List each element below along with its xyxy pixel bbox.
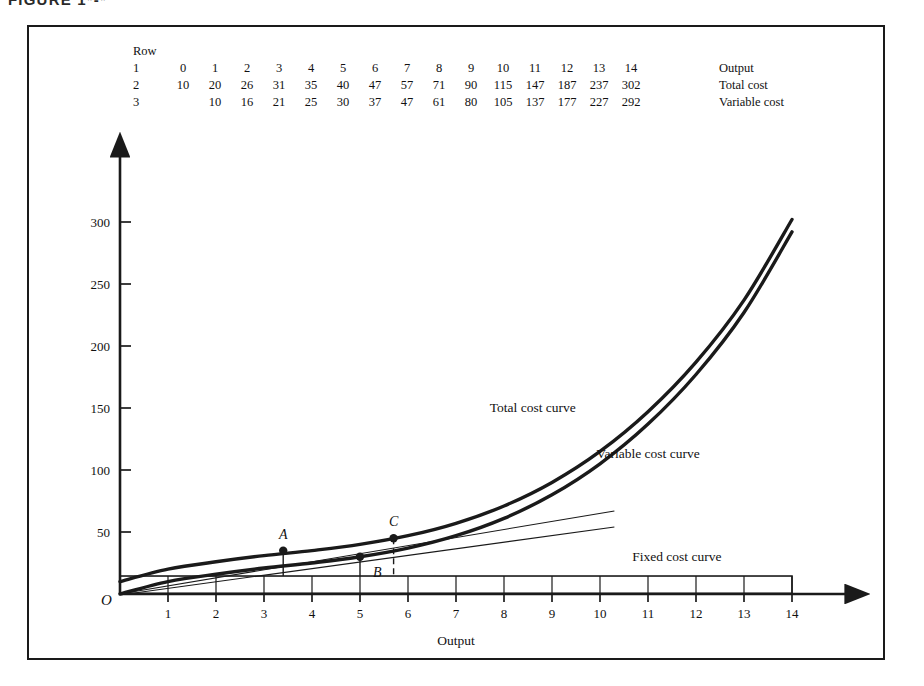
x-axis-tick-label: 12 <box>690 606 703 621</box>
x-axis-tick-label: 14 <box>786 606 800 621</box>
data-point-marker <box>279 546 287 554</box>
x-axis-tick-label: 9 <box>549 606 556 621</box>
y-axis-tick-label: 200 <box>91 339 111 354</box>
tangent-line-upper <box>127 511 614 593</box>
x-axis-tick-label: 13 <box>738 606 751 621</box>
data-point-label: C <box>389 514 399 529</box>
x-axis-tick-label: 3 <box>261 606 268 621</box>
y-axis-tick-label: 150 <box>91 401 111 416</box>
cost-curves-plot: 501001502002503001234567891011121314OOut… <box>29 27 887 662</box>
y-axis-tick-label: 300 <box>91 215 111 230</box>
data-point-label: A <box>278 527 288 542</box>
data-point-marker <box>356 553 364 561</box>
x-axis-tick-label: 1 <box>165 606 172 621</box>
tangent-line-lower <box>127 527 614 594</box>
fixed-cost-curve-label: Fixed cost curve <box>632 549 721 564</box>
y-axis-tick-label: 50 <box>97 525 110 540</box>
x-axis-title: Output <box>437 633 475 648</box>
variable-cost-curve-label: Variable cost curve <box>596 446 699 461</box>
x-axis-tick-label: 10 <box>594 606 607 621</box>
x-axis-tick-label: 8 <box>501 606 508 621</box>
x-axis-tick-label: 4 <box>309 606 316 621</box>
variable-cost-curve <box>120 232 792 594</box>
total-cost-curve <box>120 220 792 582</box>
x-axis-tick-label: 7 <box>453 606 460 621</box>
data-point-label: B <box>373 565 382 580</box>
origin-label: O <box>101 592 112 608</box>
x-axis-tick-label: 6 <box>405 606 412 621</box>
x-axis-tick-label: 2 <box>213 606 220 621</box>
total-cost-curve-label: Total cost curve <box>490 400 576 415</box>
y-axis-tick-label: 250 <box>91 277 111 292</box>
data-point-marker <box>389 534 397 542</box>
x-axis-tick-label: 5 <box>357 606 364 621</box>
figure-caption: FIGURE 1*-* <box>8 0 107 8</box>
figure-frame: Row 101234567891011121314Output210202631… <box>27 25 885 660</box>
x-axis-tick-label: 11 <box>642 606 655 621</box>
y-axis-tick-label: 100 <box>91 463 111 478</box>
